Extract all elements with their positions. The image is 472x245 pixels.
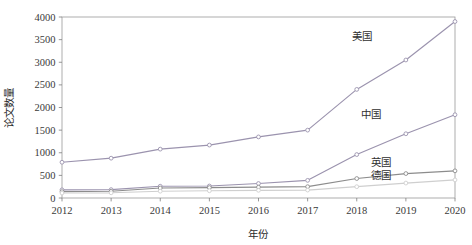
x-tick-label: 2013 bbox=[101, 205, 122, 216]
y-tick-label: 1000 bbox=[35, 147, 56, 158]
data-point-marker bbox=[257, 188, 261, 192]
y-tick-label: 0 bbox=[50, 193, 55, 204]
series-layer bbox=[60, 20, 457, 195]
data-point-marker bbox=[355, 88, 359, 92]
x-axis: 201220132014201520162017201820192020 bbox=[52, 198, 466, 216]
y-tick-label: 2000 bbox=[35, 102, 56, 113]
data-point-marker bbox=[355, 153, 359, 157]
data-point-marker bbox=[306, 128, 310, 132]
data-point-marker bbox=[60, 160, 64, 164]
x-axis-title: 年份 bbox=[248, 228, 269, 240]
x-tick-label: 2017 bbox=[297, 205, 318, 216]
data-point-marker bbox=[453, 178, 457, 182]
series-label-美国: 美国 bbox=[352, 30, 372, 42]
data-point-marker bbox=[453, 20, 457, 24]
plot-area-frame bbox=[62, 17, 455, 198]
data-point-marker bbox=[158, 189, 162, 193]
y-axis-title: 论文数量 bbox=[3, 87, 15, 128]
data-point-marker bbox=[207, 143, 211, 147]
data-point-marker bbox=[306, 178, 310, 182]
y-tick-label: 3000 bbox=[35, 57, 56, 68]
y-tick-label: 4000 bbox=[35, 12, 56, 23]
data-point-marker bbox=[453, 169, 457, 173]
data-point-marker bbox=[404, 172, 408, 176]
data-point-marker bbox=[355, 177, 359, 181]
data-point-marker bbox=[355, 185, 359, 189]
y-tick-label: 3500 bbox=[35, 34, 56, 45]
x-tick-label: 2012 bbox=[52, 205, 73, 216]
y-tick-label: 2500 bbox=[35, 79, 56, 90]
y-tick-label: 1500 bbox=[35, 125, 56, 136]
data-point-marker bbox=[306, 188, 310, 192]
data-point-marker bbox=[453, 113, 457, 117]
x-tick-label: 2016 bbox=[248, 205, 269, 216]
series-label-中国: 中国 bbox=[361, 108, 381, 120]
x-tick-label: 2020 bbox=[445, 205, 466, 216]
y-axis: 05001000150020002500300035004000 bbox=[35, 12, 63, 204]
data-point-marker bbox=[60, 191, 64, 195]
data-point-marker bbox=[109, 156, 113, 160]
data-point-marker bbox=[404, 58, 408, 62]
data-point-marker bbox=[207, 189, 211, 193]
series-label-英国: 英国 bbox=[371, 156, 391, 168]
series-labels: 美国中国英国德国 bbox=[352, 30, 392, 180]
x-tick-label: 2014 bbox=[150, 205, 172, 216]
data-point-marker bbox=[109, 191, 113, 195]
x-tick-label: 2015 bbox=[199, 205, 220, 216]
data-point-marker bbox=[404, 181, 408, 185]
data-point-marker bbox=[404, 132, 408, 136]
series-label-德国: 德国 bbox=[371, 169, 391, 181]
series-line-中国 bbox=[62, 115, 455, 190]
chart-container: 05001000150020002500300035004000 2012201… bbox=[0, 0, 472, 245]
x-tick-label: 2018 bbox=[346, 205, 367, 216]
line-chart: 05001000150020002500300035004000 2012201… bbox=[0, 0, 472, 245]
data-point-marker bbox=[158, 147, 162, 151]
x-tick-label: 2019 bbox=[395, 205, 416, 216]
y-tick-label: 500 bbox=[40, 170, 56, 181]
data-point-marker bbox=[257, 135, 261, 139]
series-line-美国 bbox=[62, 22, 455, 163]
